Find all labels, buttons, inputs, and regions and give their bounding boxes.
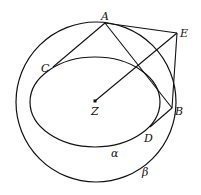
label-E: E (179, 27, 188, 40)
label-A: A (100, 10, 109, 23)
label-alpha: α (111, 147, 119, 160)
label-C: C (41, 62, 50, 75)
label-B: B (174, 105, 183, 118)
segment-AE (105, 23, 177, 33)
segment-BD (150, 108, 172, 127)
geometry-diagram: A E B C D Z α β (0, 0, 201, 195)
label-beta: β (141, 166, 148, 179)
label-Z: Z (90, 105, 99, 118)
label-D: D (143, 132, 153, 145)
center-point-Z (94, 100, 97, 103)
segment-ZE (95, 33, 177, 101)
